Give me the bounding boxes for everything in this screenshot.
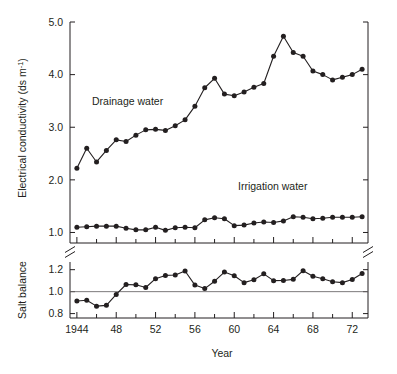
data-point	[94, 304, 99, 309]
data-point	[153, 225, 158, 230]
top-panel-axes	[70, 22, 368, 243]
data-point	[114, 137, 119, 142]
data-point	[320, 72, 325, 77]
top-panel-ytick-label: 4.0	[48, 68, 63, 80]
data-point	[261, 81, 266, 86]
data-point	[271, 278, 276, 283]
data-point	[320, 216, 325, 221]
data-point	[212, 76, 217, 81]
data-point	[261, 271, 266, 276]
data-point	[281, 34, 286, 39]
data-point	[291, 277, 296, 282]
data-point	[330, 77, 335, 82]
irrigation-water-label: Irrigation water	[238, 180, 308, 192]
data-point	[251, 85, 256, 90]
x-axis-title: Year	[211, 347, 233, 359]
irrigation-water-series	[74, 214, 364, 233]
salt-balance-points	[74, 268, 364, 308]
bottom-panel-ytick-labels: 0.81.01.2	[48, 263, 63, 319]
data-point	[330, 279, 335, 284]
top-panel-ylabel-main: Electrical conductivity (ds m	[16, 68, 28, 198]
data-point	[153, 276, 158, 281]
top-panel-ytick-label: 1.0	[48, 226, 63, 238]
x-axis-tick-label: 68	[307, 323, 319, 335]
data-point	[222, 270, 227, 275]
data-point	[84, 146, 89, 151]
data-point	[114, 224, 119, 229]
data-point	[360, 67, 365, 72]
data-point	[301, 215, 306, 220]
bottom-panel-ytick-label: 0.8	[48, 307, 63, 319]
axis-break-marks	[65, 247, 373, 258]
data-point	[74, 166, 79, 171]
data-point	[202, 217, 207, 222]
left-axis-break-icon	[65, 247, 75, 258]
data-point	[192, 283, 197, 288]
data-point	[350, 277, 355, 282]
irrigation-water-line	[77, 217, 362, 231]
data-point	[192, 225, 197, 230]
data-point	[340, 75, 345, 80]
data-point	[271, 220, 276, 225]
data-point	[173, 123, 178, 128]
data-point	[320, 276, 325, 281]
data-point	[124, 139, 129, 144]
data-point	[291, 50, 296, 55]
data-point	[291, 214, 296, 219]
data-point	[163, 273, 168, 278]
data-point	[242, 89, 247, 94]
data-point	[163, 128, 168, 133]
x-axis-tick-label: 60	[228, 323, 240, 335]
top-panel-ytick-label: 3.0	[48, 121, 63, 133]
data-point	[94, 224, 99, 229]
data-point	[232, 273, 237, 278]
data-point	[301, 54, 306, 59]
bottom-panel-ytick-label: 1.0	[48, 285, 63, 297]
data-point	[143, 227, 148, 232]
data-point	[310, 216, 315, 221]
drainage-water-label: Drainage water	[92, 95, 164, 107]
top-panel-ylabel-exponent: -1	[16, 62, 25, 69]
data-point	[350, 72, 355, 77]
data-point	[104, 224, 109, 229]
data-point	[173, 225, 178, 230]
x-axis-tick-label: 52	[150, 323, 162, 335]
data-point	[242, 223, 247, 228]
top-panel-ytick-label: 5.0	[48, 16, 63, 28]
data-point	[192, 104, 197, 109]
data-point	[330, 215, 335, 220]
bottom-panel-ylabel: Salt balance	[16, 261, 28, 319]
data-point	[183, 117, 188, 122]
top-panel: 1.02.03.04.05.0 Drainage water Irrigatio…	[16, 16, 369, 243]
x-axis-tick-label: 56	[189, 323, 201, 335]
data-point	[310, 68, 315, 73]
data-point	[340, 215, 345, 220]
data-point	[242, 280, 247, 285]
x-axis-tick-label: 64	[268, 323, 280, 335]
top-panel-ylabel-close: )	[16, 58, 28, 62]
data-point	[124, 226, 129, 231]
data-point	[212, 215, 217, 220]
top-panel-ytick-label: 2.0	[48, 174, 63, 186]
bottom-panel: 0.81.01.2 Salt balance	[16, 261, 368, 319]
data-point	[301, 268, 306, 273]
salt-balance-series	[74, 268, 364, 308]
data-point	[104, 303, 109, 308]
top-panel-ylabel: Electrical conductivity (ds m-1)	[16, 58, 29, 198]
right-axis-break-icon	[363, 247, 373, 258]
data-point	[84, 298, 89, 303]
data-point	[114, 292, 119, 297]
data-point	[212, 279, 217, 284]
data-point	[281, 278, 286, 283]
salt-balance-line	[77, 271, 362, 306]
data-point	[143, 127, 148, 132]
data-point	[133, 133, 138, 138]
data-point	[222, 92, 227, 97]
data-point	[222, 216, 227, 221]
data-point	[124, 282, 129, 287]
data-point	[232, 223, 237, 228]
top-panel-ytick-labels: 1.02.03.04.05.0	[48, 16, 63, 238]
data-point	[251, 277, 256, 282]
data-point	[202, 286, 207, 291]
x-axis-tick-label: 1944	[65, 323, 89, 335]
